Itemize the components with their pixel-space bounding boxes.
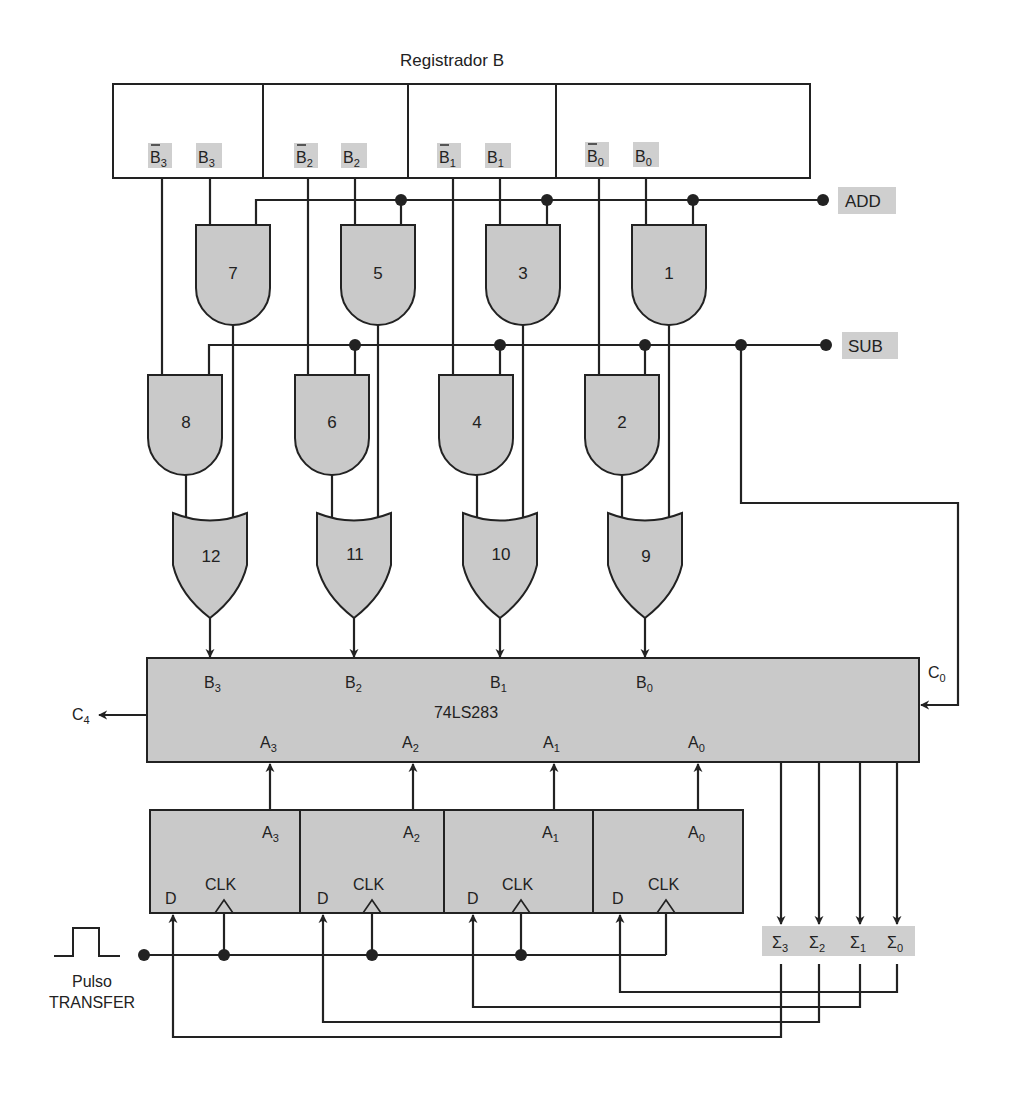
svg-text:CLK: CLK — [502, 876, 533, 893]
svg-text:D: D — [612, 890, 624, 907]
or-gate-11: 11 — [317, 513, 391, 618]
b1-bar-label: B1 — [437, 143, 461, 169]
b0-bar-label: B0 — [585, 142, 609, 168]
svg-text:2: 2 — [617, 413, 626, 432]
sum-outputs-box: Σ3 Σ2 Σ1 Σ0 — [762, 926, 915, 956]
svg-text:5: 5 — [373, 264, 382, 283]
svg-text:C4: C4 — [72, 706, 90, 726]
b2-label: B2 — [341, 143, 367, 169]
or-gate-12: 12 — [173, 513, 247, 618]
svg-text:11: 11 — [346, 545, 364, 564]
register-b-title: Registrador B — [400, 51, 504, 70]
transfer-clock-line — [138, 913, 666, 961]
svg-text:7: 7 — [228, 264, 237, 283]
and-gate-6: 6 — [295, 375, 369, 475]
b1-label: B1 — [485, 143, 511, 169]
or-gate-9: 9 — [608, 513, 682, 618]
carry-out: C4 — [72, 706, 147, 726]
svg-text:D: D — [165, 890, 177, 907]
add-control-line — [256, 194, 829, 225]
transfer-label-line1: Pulso — [72, 973, 112, 990]
svg-text:D: D — [467, 890, 479, 907]
svg-text:4: 4 — [472, 413, 481, 432]
register-b: B3 B3 B2 B2 B1 B1 B0 — [113, 84, 810, 178]
sum-outputs — [781, 762, 897, 924]
transfer-label-line2: TRANSFER — [49, 994, 135, 1011]
and-gate-3: 3 — [486, 225, 560, 325]
pulse-waveform-icon — [54, 928, 120, 956]
svg-text:9: 9 — [641, 547, 650, 566]
svg-text:CLK: CLK — [353, 876, 384, 893]
b0-label: B0 — [633, 142, 659, 168]
svg-text:3: 3 — [518, 264, 527, 283]
svg-text:12: 12 — [202, 547, 221, 566]
svg-text:CLK: CLK — [205, 876, 236, 893]
adder-74ls283: B3 B2 B1 B0 74LS283 A3 A2 A1 A0 C0 — [147, 658, 946, 762]
and-mid-outputs — [186, 475, 622, 517]
adder-name: 74LS283 — [434, 704, 498, 721]
svg-text:CLK: CLK — [648, 876, 679, 893]
and-gate-7: 7 — [196, 225, 270, 325]
svg-text:1: 1 — [664, 264, 673, 283]
add-terminal — [817, 194, 829, 206]
or-outputs — [210, 618, 645, 657]
svg-text:10: 10 — [492, 545, 511, 564]
sub-terminal — [820, 339, 832, 351]
and-gate-1: 1 — [632, 225, 706, 325]
accumulator-register: A3 CLK D A2 CLK D A1 CLK D A0 CLK D — [150, 810, 743, 913]
b3-bar-label: B3 — [148, 143, 172, 169]
svg-text:6: 6 — [327, 413, 336, 432]
carry-in-label: C0 — [928, 664, 946, 684]
b2-bar-label: B2 — [294, 143, 318, 169]
b3-label: B3 — [196, 143, 222, 169]
accumulator-to-adder — [270, 764, 698, 810]
svg-text:D: D — [317, 890, 329, 907]
add-label: ADD — [838, 187, 896, 214]
sub-label: SUB — [842, 332, 898, 359]
and-gate-8: 8 — [148, 375, 222, 475]
svg-text:ADD: ADD — [845, 192, 881, 211]
adder-subtractor-circuit: Registrador B B3 B3 B2 B2 — [0, 0, 1010, 1105]
and-gate-4: 4 — [439, 375, 513, 475]
or-gate-10: 10 — [463, 513, 537, 618]
svg-text:SUB: SUB — [848, 337, 883, 356]
svg-text:8: 8 — [181, 413, 190, 432]
and-gate-5: 5 — [341, 225, 415, 325]
and-gate-2: 2 — [585, 375, 659, 475]
